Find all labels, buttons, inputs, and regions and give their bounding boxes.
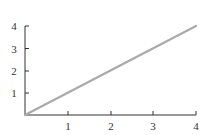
y-tick-label: 2 (11, 65, 17, 77)
y-ticks (25, 26, 29, 93)
x-tick-label: 3 (150, 120, 156, 132)
series-line (25, 26, 196, 115)
x-ticks (68, 111, 196, 115)
line-chart: 4 3 2 1 1 2 3 4 (0, 0, 207, 135)
y-tick-label: 3 (11, 43, 17, 55)
x-tick-label: 4 (193, 120, 199, 132)
y-tick-label: 4 (11, 20, 17, 32)
y-tick-label: 1 (11, 87, 17, 99)
x-tick-label: 2 (108, 120, 114, 132)
x-tick-label: 1 (65, 120, 71, 132)
